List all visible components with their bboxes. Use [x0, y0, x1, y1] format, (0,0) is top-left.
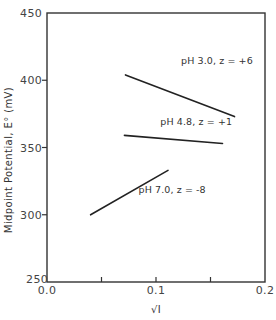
y-tick-label: 350: [20, 142, 42, 155]
series-line-2: [124, 135, 222, 143]
series-label-1: pH 3.0, z = +6: [181, 55, 253, 66]
series-label-2: pH 4.8, z = +1: [160, 116, 232, 127]
y-axis-title: Midpoint Potential, E° (mV): [3, 87, 14, 233]
plot-frame: [47, 13, 265, 282]
x-tick-label: 0.0: [38, 284, 56, 297]
x-tick-label: 0.2: [256, 284, 274, 297]
series-label-3: pH 7.0, z = -8: [139, 184, 206, 195]
series-labels: pH 3.0, z = +6pH 4.8, z = +1pH 7.0, z = …: [139, 55, 253, 195]
y-tick-label: 400: [20, 74, 42, 87]
series-line-1: [126, 75, 235, 117]
y-tick-label: 450: [20, 7, 42, 20]
chart: 250300350400450 0.00.10.2 pH 3.0, z = +6…: [0, 0, 276, 320]
x-axis-ticks: 0.00.10.2: [38, 277, 274, 297]
y-tick-label: 300: [20, 209, 42, 222]
x-axis-title: √I: [151, 304, 161, 315]
x-tick-label: 0.1: [147, 284, 165, 297]
y-axis-ticks: 250300350400450: [20, 7, 48, 286]
